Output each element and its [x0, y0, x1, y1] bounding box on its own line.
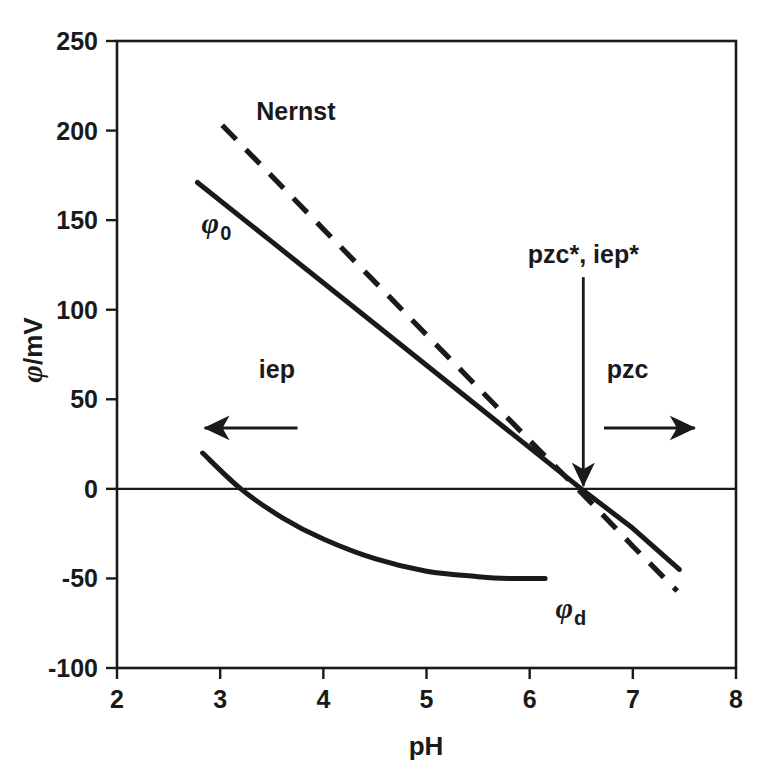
- curve-label-nernst-symbol: Nernst: [256, 97, 336, 125]
- curve-label-phid-subscript: d: [574, 607, 586, 629]
- annotation-pzc-iep-star-label: pzc*, iep*: [528, 240, 639, 268]
- ph-potential-chart: 250200150100500-50-100 2345678 pzc*, iep…: [0, 0, 770, 776]
- y-tick-label: -50: [62, 564, 98, 592]
- curve-label-nernst: Nernst: [256, 97, 336, 125]
- y-axis-title: φ/mV: [15, 317, 48, 383]
- y-tick-label: 200: [56, 117, 98, 145]
- x-tick-label: 8: [729, 685, 743, 713]
- curve-label-phi0-subscript: 0: [220, 222, 231, 244]
- x-tick-label: 7: [626, 685, 640, 713]
- y-axis-phi-symbol: φ: [15, 365, 48, 383]
- x-axis-title: pH: [409, 731, 444, 761]
- y-tick-label: 50: [70, 385, 98, 413]
- curve-label-phi0-symbol: φ: [202, 206, 220, 239]
- y-tick-label: 250: [56, 27, 98, 55]
- y-axis-units: /mV: [18, 317, 48, 365]
- y-tick-label: 100: [56, 296, 98, 324]
- x-tick-label: 3: [213, 685, 227, 713]
- y-tick-label: 150: [56, 206, 98, 234]
- annotation-iep-label: iep: [259, 355, 295, 383]
- x-tick-label: 4: [316, 685, 330, 713]
- y-axis-title-text: φ/mV: [15, 317, 48, 383]
- chart-figure: 250200150100500-50-100 2345678 pzc*, iep…: [0, 0, 770, 776]
- chart-background: [0, 0, 770, 776]
- x-tick-label: 6: [523, 685, 537, 713]
- y-tick-label: -100: [48, 654, 98, 682]
- x-tick-label: 2: [110, 685, 124, 713]
- annotation-pzc-label: pzc: [607, 355, 649, 383]
- curve-label-phid-symbol: φ: [555, 591, 573, 624]
- y-tick-label: 0: [84, 475, 98, 503]
- x-tick-label: 5: [420, 685, 434, 713]
